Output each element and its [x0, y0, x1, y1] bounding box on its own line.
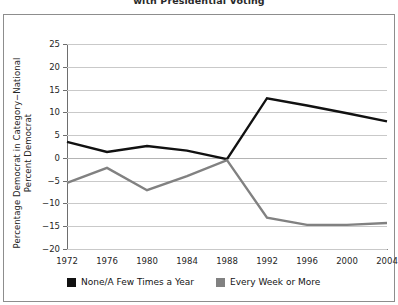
x-tick-label: 1984: [167, 256, 207, 266]
legend-item: None/A Few Times a Year: [67, 277, 194, 287]
y-tick-label: 25: [34, 39, 60, 49]
y-tick-label: −10: [34, 198, 60, 208]
legend-swatch-icon: [216, 278, 225, 287]
y-tick-label: 10: [34, 107, 60, 117]
series-line: [67, 98, 387, 159]
x-tick-label: 2000: [327, 256, 367, 266]
gridline: [67, 249, 387, 250]
legend-swatch-icon: [67, 278, 76, 287]
chart-title: with Presidential Voting: [0, 0, 398, 6]
y-tick-label: −20: [34, 244, 60, 254]
x-tick-label: 1996: [287, 256, 327, 266]
chart-figure: with Presidential Voting Percentage Demo…: [0, 0, 398, 305]
plot-area: [67, 44, 387, 249]
y-tick-label: 5: [34, 130, 60, 140]
chart-legend: None/A Few Times a YearEvery Week or Mor…: [67, 277, 320, 287]
y-tick-label: 0: [34, 153, 60, 163]
y-tick-label: −15: [34, 221, 60, 231]
y-tick-label: −5: [34, 176, 60, 186]
y-tick-label: 15: [34, 85, 60, 95]
legend-item: Every Week or More: [216, 277, 320, 287]
legend-label: Every Week or More: [230, 277, 320, 287]
x-tick-label: 1988: [207, 256, 247, 266]
x-tick-label: 1992: [247, 256, 287, 266]
x-tick-label: 1972: [47, 256, 87, 266]
y-tick-label: 20: [34, 62, 60, 72]
series-lines: [67, 44, 387, 249]
x-tick-label: 1980: [127, 256, 167, 266]
y-axis-title: Percentage Democrat in Category−National…: [12, 48, 34, 258]
x-tick-label: 2004: [367, 256, 398, 266]
series-line: [67, 160, 387, 225]
legend-label: None/A Few Times a Year: [81, 277, 194, 287]
x-tick-label: 1976: [87, 256, 127, 266]
